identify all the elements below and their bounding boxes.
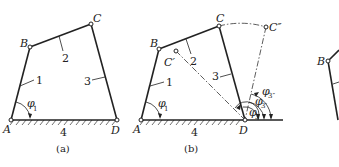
- label-D-a: D: [110, 124, 120, 137]
- leader-2-a: [59, 36, 63, 51]
- label-phi1-sub-a: 1: [33, 105, 37, 113]
- figure-a: A B C D 1 2 3 4 φ 1 (a): [2, 12, 120, 154]
- leader-1-b: [150, 82, 164, 86]
- label-phi3-sub-b: 3: [255, 113, 259, 121]
- label-A-b: A: [132, 123, 141, 136]
- label-link-4-a: 4: [60, 126, 67, 139]
- label-link-1-b: 1: [166, 76, 173, 89]
- label-B-b: B: [149, 37, 158, 50]
- label-C-prime-b: C′: [164, 56, 175, 69]
- four-bar-linkage-diagram: A B C D 1 2 3 4 φ 1 (a): [0, 0, 339, 167]
- link-2-coupler-a: [30, 24, 91, 47]
- label-C-b: C: [216, 12, 225, 25]
- joint-B-a: [28, 45, 32, 49]
- caption-b: (b): [184, 143, 198, 154]
- label-B-a: B: [19, 37, 28, 50]
- leader-3-a: [92, 77, 105, 80]
- link-3-rocker-b: [219, 26, 245, 120]
- link-2-coupler-b: [159, 26, 219, 49]
- label-phi3-double-prime-sub-b: 3″: [268, 92, 275, 100]
- label-link-3-a: 3: [84, 75, 91, 88]
- label-C-a: C: [93, 12, 102, 25]
- caption-a: (a): [56, 143, 70, 154]
- figure-c-partial: B: [316, 50, 339, 120]
- arrowhead-phi1-a: [28, 113, 32, 119]
- link-1-crank-c: [328, 61, 338, 120]
- dashdot-arc-C: [219, 23, 266, 27]
- leader-3-b: [220, 74, 231, 77]
- leader-1-c: [333, 82, 339, 84]
- leader-2-b: [186, 39, 191, 54]
- joint-C-prime-b: [174, 49, 178, 53]
- label-link-2-a: 2: [62, 52, 69, 65]
- arrowhead-phi3-start: [236, 104, 241, 110]
- joint-D-b: [243, 118, 247, 122]
- label-phi3-prime-sub-b: 3′: [261, 102, 267, 110]
- joint-B-c: [326, 59, 330, 63]
- arrowhead-phi1-b: [158, 113, 162, 119]
- label-D-b: D: [238, 124, 248, 137]
- figure-b: A B C C′ C″ D 1 2 3 4 φ 1 φ 3 φ 3′ φ 3″ …: [132, 12, 283, 154]
- arrowhead-phi3-double-prime: [269, 114, 273, 120]
- label-A-a: A: [2, 123, 11, 136]
- label-link-3-b: 3: [212, 70, 219, 83]
- joint-D-a: [115, 118, 119, 122]
- label-C-double-prime-b: C″: [269, 21, 282, 34]
- joint-C-double-prime-b: [264, 25, 268, 29]
- arrowhead-phi3-prime: [262, 114, 266, 120]
- leader-1-a: [20, 80, 34, 86]
- label-phi1-sub-b: 1: [164, 105, 168, 113]
- label-link-2-b: 2: [190, 55, 197, 68]
- link-3-rocker-a: [91, 24, 117, 120]
- label-link-4-b: 4: [191, 126, 198, 139]
- joint-A-a: [9, 118, 13, 122]
- joint-A-b: [139, 118, 143, 122]
- label-B-c: B: [316, 55, 325, 68]
- label-link-1-a: 1: [36, 74, 43, 87]
